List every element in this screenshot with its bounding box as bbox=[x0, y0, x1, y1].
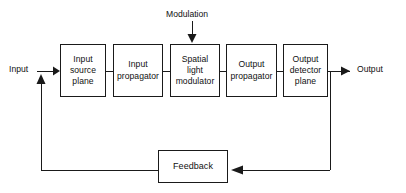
modulation-label: Modulation bbox=[166, 9, 208, 19]
block-output-propagator: Output propagator bbox=[226, 44, 277, 97]
block-input-propagator: Input propagator bbox=[113, 44, 163, 97]
block-input-source-plane: Input source plane bbox=[60, 44, 106, 97]
block-feedback: Feedback bbox=[158, 150, 228, 183]
arrowhead-modulation bbox=[188, 34, 197, 43]
block-output-detector-plane: Output detector plane bbox=[283, 44, 328, 97]
block-output-detector-plane-label: Output detector plane bbox=[289, 54, 322, 88]
arrowhead-feedback-in bbox=[231, 166, 243, 175]
block-spatial-light-modulator: Spatial light modulator bbox=[170, 44, 220, 97]
input-label: Input bbox=[9, 64, 28, 74]
block-feedback-label: Feedback bbox=[172, 161, 214, 172]
block-spatial-light-modulator-label: Spatial light modulator bbox=[175, 54, 216, 88]
output-label: Output bbox=[357, 64, 383, 74]
block-diagram: Input source plane Input propagator Spat… bbox=[0, 0, 406, 193]
arrowhead-feedback-up bbox=[37, 74, 46, 84]
block-output-propagator-label: Output propagator bbox=[229, 59, 273, 81]
block-input-propagator-label: Input propagator bbox=[116, 59, 160, 81]
arrowhead-input bbox=[53, 67, 60, 76]
arrowhead-output bbox=[341, 67, 350, 76]
block-input-source-plane-label: Input source plane bbox=[69, 54, 97, 88]
